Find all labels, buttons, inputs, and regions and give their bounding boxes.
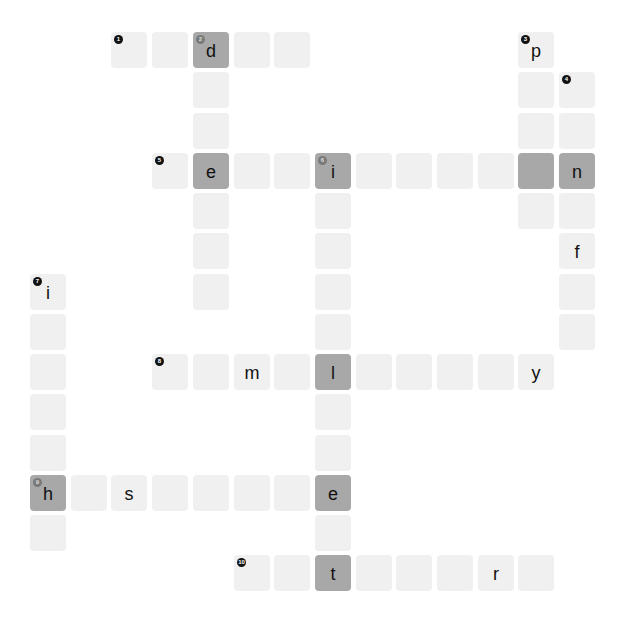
cell-letter: e — [193, 162, 229, 182]
crossword-cell[interactable] — [193, 475, 229, 511]
crossword-cell[interactable] — [356, 153, 392, 189]
cell-letter: y — [518, 363, 554, 383]
crossword-cell[interactable] — [274, 32, 310, 68]
crossword-cell[interactable] — [518, 193, 554, 229]
crossword-cell[interactable]: r — [478, 555, 514, 591]
crossword-cell[interactable] — [315, 435, 351, 471]
crossword-cell[interactable] — [71, 475, 107, 511]
crossword-cell[interactable] — [193, 193, 229, 229]
crossword-cell[interactable] — [274, 555, 310, 591]
crossword-cell[interactable]: s — [111, 475, 147, 511]
crossword-cell[interactable] — [478, 153, 514, 189]
crossword-cell[interactable] — [30, 354, 66, 390]
cell-letter: h — [30, 484, 66, 504]
crossword-cell[interactable]: n — [559, 153, 595, 189]
cell-letter: n — [559, 162, 595, 182]
crossword-cell[interactable] — [193, 72, 229, 108]
crossword-cell[interactable]: 7i — [30, 274, 66, 310]
crossword-cell[interactable] — [315, 193, 351, 229]
crossword-cell[interactable]: 10 — [234, 555, 270, 591]
crossword-cell[interactable] — [559, 193, 595, 229]
crossword-cell[interactable] — [315, 515, 351, 551]
cell-letter: d — [193, 41, 229, 61]
clue-number: 10 — [237, 558, 246, 567]
crossword-cell[interactable] — [274, 475, 310, 511]
crossword-cell[interactable] — [274, 153, 310, 189]
clue-number: 1 — [114, 35, 123, 44]
crossword-cell[interactable]: f — [559, 233, 595, 269]
cell-letter: r — [478, 564, 514, 584]
crossword-cell[interactable]: 1 — [111, 32, 147, 68]
cell-letter: p — [518, 41, 554, 61]
cell-letter: i — [30, 283, 66, 303]
crossword-cell[interactable]: e — [315, 475, 351, 511]
crossword-cell[interactable] — [437, 354, 473, 390]
crossword-cell[interactable]: y — [518, 354, 554, 390]
cell-letter: i — [315, 162, 351, 182]
crossword-cell[interactable] — [234, 32, 270, 68]
cell-letter: s — [111, 484, 147, 504]
crossword-cell[interactable] — [30, 314, 66, 350]
cell-letter: e — [315, 484, 351, 504]
crossword-cell[interactable] — [356, 354, 392, 390]
crossword-cell[interactable] — [518, 113, 554, 149]
crossword-cell[interactable]: 3p — [518, 32, 554, 68]
crossword-grid: 12d3p45e6inf7i8mly9hse10tr — [0, 0, 625, 619]
crossword-cell[interactable]: t — [315, 555, 351, 591]
cell-letter: l — [315, 363, 351, 383]
crossword-cell[interactable] — [356, 555, 392, 591]
cell-letter: t — [315, 564, 351, 584]
crossword-cell[interactable] — [559, 113, 595, 149]
crossword-cell[interactable] — [315, 233, 351, 269]
crossword-cell[interactable] — [193, 113, 229, 149]
crossword-cell[interactable] — [193, 274, 229, 310]
cell-letter: m — [234, 363, 270, 383]
crossword-cell[interactable]: e — [193, 153, 229, 189]
crossword-cell[interactable]: 8 — [152, 354, 188, 390]
crossword-cell[interactable] — [234, 153, 270, 189]
crossword-cell[interactable]: 5 — [152, 153, 188, 189]
crossword-cell[interactable] — [30, 394, 66, 430]
crossword-cell[interactable] — [315, 314, 351, 350]
crossword-cell[interactable] — [152, 32, 188, 68]
crossword-cell[interactable] — [30, 435, 66, 471]
crossword-cell[interactable] — [559, 274, 595, 310]
crossword-cell[interactable]: 4 — [559, 72, 595, 108]
crossword-cell[interactable] — [396, 153, 432, 189]
crossword-cell[interactable]: m — [234, 354, 270, 390]
crossword-cell[interactable] — [315, 394, 351, 430]
cell-letter: f — [559, 242, 595, 262]
crossword-cell[interactable] — [234, 475, 270, 511]
crossword-cell[interactable] — [30, 515, 66, 551]
crossword-cell[interactable] — [396, 555, 432, 591]
crossword-cell[interactable] — [559, 314, 595, 350]
clue-number: 8 — [155, 357, 164, 366]
crossword-cell[interactable] — [437, 153, 473, 189]
crossword-cell[interactable] — [193, 354, 229, 390]
crossword-cell[interactable] — [193, 233, 229, 269]
crossword-cell[interactable] — [437, 555, 473, 591]
crossword-cell[interactable] — [518, 555, 554, 591]
crossword-cell[interactable] — [315, 274, 351, 310]
crossword-cell[interactable] — [274, 354, 310, 390]
crossword-cell[interactable] — [518, 72, 554, 108]
crossword-cell[interactable] — [152, 475, 188, 511]
clue-number: 5 — [155, 156, 164, 165]
crossword-cell[interactable] — [478, 354, 514, 390]
crossword-cell[interactable]: 6i — [315, 153, 351, 189]
clue-number: 4 — [562, 75, 571, 84]
crossword-cell[interactable] — [518, 153, 554, 189]
crossword-cell[interactable]: 9h — [30, 475, 66, 511]
crossword-cell[interactable] — [396, 354, 432, 390]
crossword-cell[interactable]: l — [315, 354, 351, 390]
crossword-cell[interactable]: 2d — [193, 32, 229, 68]
